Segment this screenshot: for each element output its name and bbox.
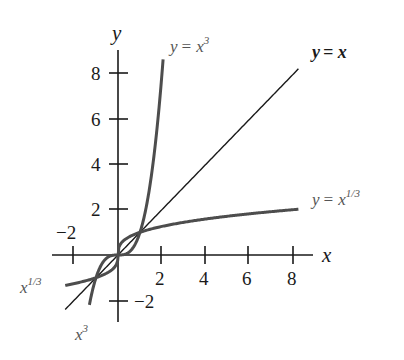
y-tick-label-2: 2 — [91, 199, 101, 220]
label-y-equals-x: y= x — [310, 42, 347, 62]
y-tick-label-8: 8 — [91, 63, 101, 84]
label-y-equals-x-cubed: y= x3 — [168, 34, 210, 56]
function-plot: −2 2 4 6 8 8 6 4 2 −2 y x y= x3 y= x y= … — [0, 0, 404, 360]
y-tick-label-6: 6 — [91, 109, 101, 130]
y-axis-label: y — [110, 21, 122, 45]
label-cube-short: x3 — [74, 322, 89, 344]
y-tick-label-neg2: −2 — [134, 291, 154, 312]
curve-y-equals-x — [65, 69, 298, 310]
curve-y-equals-x-cubed — [89, 59, 163, 304]
axes — [52, 50, 313, 322]
x-tick-label-2: 2 — [155, 268, 165, 289]
x-tick-label-neg2: −2 — [56, 222, 76, 243]
y-tick-label-4: 4 — [91, 154, 101, 175]
label-y-equals-cube-root-x: y= x1/3 — [310, 187, 360, 209]
x-tick-label-6: 6 — [242, 268, 252, 289]
x-axis-label: x — [321, 243, 332, 267]
x-tick-label-4: 4 — [199, 268, 209, 289]
x-tick-label-8: 8 — [287, 268, 297, 289]
label-cube-root-short: x1/3 — [19, 275, 42, 297]
